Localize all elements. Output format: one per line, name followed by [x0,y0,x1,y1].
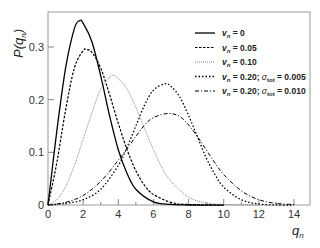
y-tick-label: 0 [38,199,44,211]
x-tick-label: 10 [218,208,230,220]
x-axis: 02468101214 [45,199,300,220]
x-tick-label: 4 [115,208,121,220]
plot-curves [48,20,294,205]
x-tick-label: 2 [80,208,86,220]
legend-label: vn = 0.20; σtot = 0.005 [222,72,306,83]
y-tick-label: 0.3 [29,41,44,53]
y-tick-label: 0.1 [29,146,44,158]
x-axis-title: qn [292,223,304,240]
legend-item: vn = 0.20; σtot = 0.010 [195,86,306,97]
legend-item: vn = 0.10 [195,57,257,68]
x-tick-label: 6 [150,208,156,220]
legend-item: vn = 0.05 [195,43,257,54]
curve-vn-0-05 [48,49,224,205]
legend-label: vn = 0.10 [222,57,257,68]
x-tick-label: 14 [288,208,300,220]
x-tick-label: 12 [253,208,265,220]
legend-item: vn = 0 [195,28,245,39]
x-tick-label: 0 [45,208,51,220]
curve-vn-0-20-sigma-0-005 [48,84,294,205]
curve-vn-0-20-sigma-0-010 [48,113,294,205]
y-tick-label: 0.2 [29,94,44,106]
chart: 00.10.20.3 02468101214 P(qn) qn vn = 0vn… [0,0,320,248]
legend: vn = 0vn = 0.05vn = 0.10vn = 0.20; σtot … [195,28,306,97]
legend-label: vn = 0 [222,28,245,39]
x-tick-label: 8 [186,208,192,220]
legend-item: vn = 0.20; σtot = 0.005 [195,72,306,83]
legend-label: vn = 0.05 [222,43,257,54]
legend-label: vn = 0.20; σtot = 0.010 [222,86,306,97]
y-axis-title: P(qn) [11,29,28,58]
plot-frame [48,12,310,205]
